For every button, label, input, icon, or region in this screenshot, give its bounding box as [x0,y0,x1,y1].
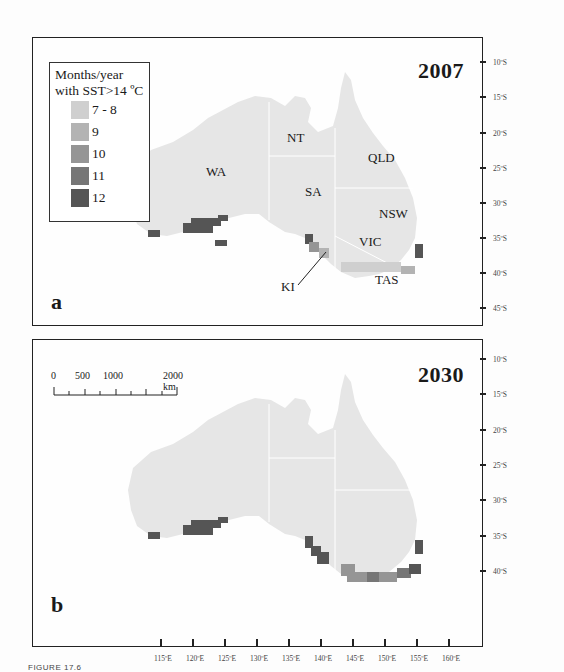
label-qld: QLD [368,150,395,166]
lat-label: 10ºS [493,355,507,364]
lon-label: 125ºE [218,654,236,663]
legend: Months/year with SST>14 ºC 7 - 8 9 10 11… [49,62,150,222]
lat-label: 40ºS [493,269,507,278]
lat-label: 20ºS [493,426,507,435]
year-label-2030: 2030 [418,362,464,388]
lat-label: 45ºS [493,304,507,313]
label-sa: SA [305,184,322,200]
figure-caption: FIGURE 17.6 [28,663,82,672]
lon-label: 130ºE [250,654,268,663]
label-vic: VIC [359,234,381,250]
legend-title-line2: with SST>14 ºC [55,83,144,99]
scale-bar-ruler [51,370,191,400]
panel-letter-b: b [51,592,63,618]
legend-item-9: 9 [71,121,144,143]
lon-label: 150ºE [378,654,396,663]
australia-landmass [128,374,417,580]
legend-item-10: 10 [71,143,144,165]
lon-label: 160ºE [442,654,460,663]
label-wa: WA [206,164,226,180]
ki-pointer-line [298,252,326,285]
legend-label: 10 [92,146,106,162]
label-tas: TAS [375,272,399,288]
map-panel-2030: 0 500 1000 2000 km 2030 b [32,339,483,647]
lat-label: 35ºS [493,532,507,541]
scale-bar: 0 500 1000 2000 km [51,370,191,400]
lat-label: 30ºS [493,496,507,505]
map-panel-2007: Months/year with SST>14 ºC 7 - 8 9 10 11… [32,37,483,326]
legend-label: 9 [92,124,99,140]
label-nsw: NSW [379,206,408,222]
legend-swatch [71,101,89,119]
legend-item-12: 12 [71,187,144,209]
legend-label: 7 - 8 [92,102,117,118]
label-ki: KI [281,279,295,295]
panel-letter-a: a [51,289,62,315]
lon-label: 140ºE [314,654,332,663]
legend-item-11: 11 [71,165,144,187]
lon-label: 120ºE [186,654,204,663]
lat-label: 30ºS [493,199,507,208]
legend-swatch [71,123,89,141]
year-label-2007: 2007 [418,58,464,84]
legend-label: 12 [92,190,106,206]
legend-swatch [71,145,89,163]
lat-label: 15ºS [493,390,507,399]
legend-item-7-8: 7 - 8 [71,99,144,121]
lat-label: 25ºS [493,461,507,470]
lon-label: 135ºE [282,654,300,663]
lon-label: 115ºE [154,654,172,663]
lon-label: 155ºE [410,654,428,663]
label-nt: NT [287,130,304,146]
lon-label: 145ºE [346,654,364,663]
lat-label: 35ºS [493,234,507,243]
legend-swatch [71,167,89,185]
legend-swatch [71,189,89,207]
lat-label: 15ºS [493,93,507,102]
longitude-axis: 115ºE 120ºE 125ºE 130ºE 135ºE 140ºE 145º… [0,646,564,666]
lat-label: 10ºS [493,58,507,67]
lat-label: 40ºS [493,567,507,576]
legend-title-line1: Months/year [55,67,144,83]
legend-label: 11 [92,168,105,184]
lat-label: 20ºS [493,129,507,138]
lat-label: 25ºS [493,164,507,173]
